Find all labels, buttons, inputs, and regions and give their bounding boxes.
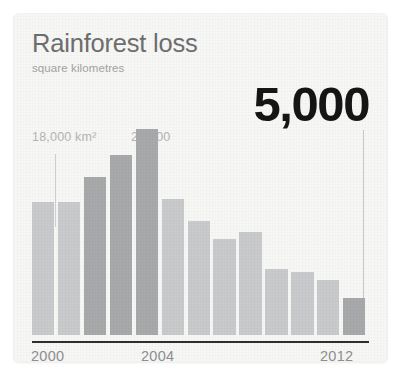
bar-2008 [239, 232, 261, 335]
bar-2006 [188, 221, 210, 335]
bar-2011 [317, 280, 339, 335]
bar-2005 [162, 199, 184, 335]
x-axis-tick-2012: 2012 [320, 348, 353, 362]
infographic-card: Rainforest loss square kilometres 5,000 … [14, 14, 387, 362]
x-axis-tick-2000: 2000 [31, 348, 64, 362]
bar-2001 [58, 202, 80, 335]
bar-2003 [110, 155, 132, 335]
bar-2002 [84, 177, 106, 335]
x-axis-line [32, 341, 369, 343]
bar-2010 [291, 272, 313, 335]
x-axis-tick-2004: 2004 [141, 348, 174, 362]
page-title: Rainforest loss [32, 29, 198, 58]
bar-2007 [213, 239, 235, 335]
bar-2004 [136, 129, 158, 335]
bar-chart-plot-area [32, 114, 369, 335]
bar-2012 [343, 298, 365, 335]
chart-subtitle: square kilometres [32, 62, 124, 74]
bar-2009 [265, 269, 287, 335]
bar-2000 [32, 202, 54, 335]
